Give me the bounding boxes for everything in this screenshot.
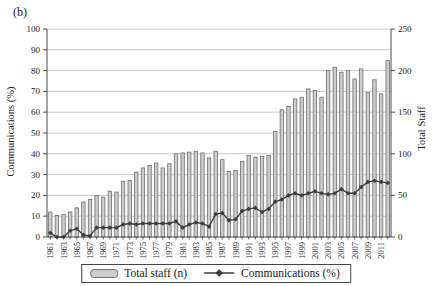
svg-text:2001: 2001	[310, 242, 320, 259]
svg-text:2005: 2005	[336, 242, 346, 259]
svg-text:2003: 2003	[323, 242, 333, 259]
svg-text:1993: 1993	[257, 242, 267, 259]
svg-text:1967: 1967	[85, 242, 95, 259]
svg-text:100: 100	[398, 149, 412, 159]
svg-text:2009: 2009	[363, 242, 373, 259]
legend-item-communications: Communications (%)	[203, 267, 340, 279]
svg-text:100: 100	[27, 24, 41, 34]
svg-text:90: 90	[31, 45, 41, 55]
left-axis-title: Communications (%)	[5, 28, 16, 236]
svg-text:1965: 1965	[72, 242, 82, 259]
svg-text:1987: 1987	[217, 242, 227, 259]
svg-text:1969: 1969	[98, 242, 108, 259]
svg-text:20: 20	[31, 190, 41, 200]
legend: Total staff (n) Communications (%)	[81, 264, 351, 283]
svg-text:1979: 1979	[164, 242, 174, 259]
svg-text:1971: 1971	[111, 242, 121, 259]
svg-text:60: 60	[31, 107, 41, 117]
svg-text:1995: 1995	[270, 242, 280, 259]
svg-text:1963: 1963	[59, 242, 69, 259]
bar-series-total-staff	[49, 61, 390, 237]
svg-text:50: 50	[31, 128, 41, 138]
svg-text:0: 0	[36, 232, 41, 242]
svg-text:1999: 1999	[297, 242, 307, 259]
svg-text:1973: 1973	[125, 242, 135, 259]
figure: 0102030405060708090100050100150200250196…	[0, 0, 432, 286]
line-series-communications	[48, 179, 390, 240]
svg-text:30: 30	[31, 170, 41, 180]
bar-swatch-icon	[90, 269, 118, 278]
legend-label-total-staff: Total staff (n)	[124, 267, 187, 279]
svg-text:1961: 1961	[45, 242, 55, 259]
svg-text:1983: 1983	[191, 242, 201, 259]
svg-text:80: 80	[31, 66, 41, 76]
svg-text:250: 250	[398, 24, 412, 34]
svg-text:2007: 2007	[350, 242, 360, 259]
svg-text:1991: 1991	[244, 242, 254, 259]
svg-text:1975: 1975	[138, 242, 148, 259]
svg-text:1985: 1985	[204, 242, 214, 259]
svg-text:200: 200	[398, 66, 412, 76]
svg-text:70: 70	[31, 86, 41, 96]
chart-svg: 0102030405060708090100050100150200250196…	[0, 0, 432, 286]
legend-item-total-staff: Total staff (n)	[90, 267, 187, 279]
svg-text:1997: 1997	[283, 242, 293, 259]
svg-text:1989: 1989	[231, 242, 241, 259]
svg-text:150: 150	[398, 107, 412, 117]
svg-text:10: 10	[31, 211, 41, 221]
svg-text:1981: 1981	[178, 242, 188, 259]
legend-label-communications: Communications (%)	[241, 267, 340, 279]
svg-text:50: 50	[398, 190, 408, 200]
panel-label: (b)	[13, 5, 27, 20]
svg-text:0: 0	[398, 232, 403, 242]
right-axis-title: Total Staff	[416, 25, 427, 233]
svg-text:40: 40	[31, 149, 41, 159]
line-swatch-icon	[203, 268, 235, 278]
svg-text:1977: 1977	[151, 242, 161, 259]
svg-text:2011: 2011	[376, 242, 386, 259]
